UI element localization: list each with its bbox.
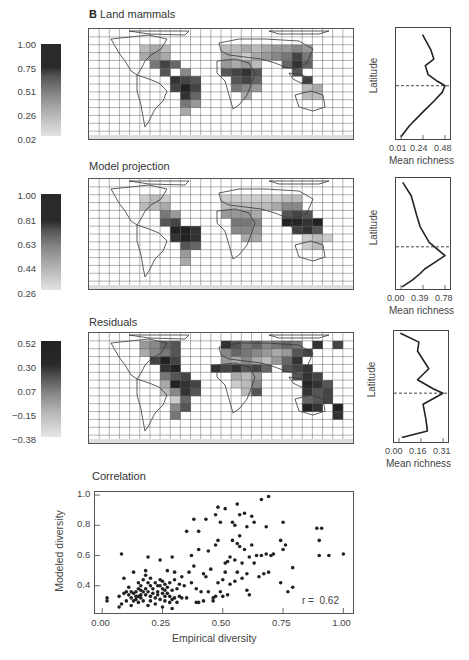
panel-title-text: Land mammals (100, 8, 175, 20)
colorbar-tick-label: 0.44 (0, 263, 36, 274)
scatter-ylabel: Modeled diversity (53, 510, 65, 592)
profile-xtick: 0.00 (385, 446, 403, 456)
correlation-title: Correlation (92, 470, 146, 482)
scatter-ytick: 0.4 (77, 579, 90, 590)
profile-ylabel: Latitude (368, 58, 379, 94)
colorbar-tick-label: 0.75 (0, 63, 36, 74)
world-grid-map (89, 333, 353, 443)
colorbar-tick-label: 0.30 (0, 362, 36, 373)
panel-title-land-mammals: BLand mammals (89, 8, 175, 20)
profile-ylabel: Latitude (368, 210, 379, 246)
profile-xtick: 0.31 (433, 446, 451, 456)
colorbar-tick-label: 0.52 (0, 338, 36, 349)
correlation-annotation: r = 0.62 (302, 595, 339, 606)
map-land-mammals (88, 28, 354, 140)
scatter-xtick: 1.00 (332, 617, 351, 628)
scatter-xtick: 0.50 (212, 617, 231, 628)
world-grid-map (89, 29, 353, 139)
scatter-ytick: 1.0 (77, 488, 90, 499)
profile-xtick: 0.01 (389, 143, 407, 153)
profile-xlabel: Mean richness (389, 305, 454, 316)
profile-frame (395, 177, 451, 290)
panel-title-model-projection: Model projection (89, 160, 170, 172)
profile-xlabel: Mean richness (389, 155, 454, 166)
colorbar-tick-label: 0.51 (0, 86, 36, 97)
colorbar-tick-label: 0.02 (0, 134, 36, 145)
colorbar-tick-label: −0.38 (0, 434, 36, 445)
scatter-xtick: 0.00 (91, 617, 110, 628)
latitude-profile-line (396, 178, 450, 289)
scatter-ytick: 0.8 (77, 518, 90, 529)
profile-xtick: 0.24 (410, 143, 428, 153)
colorbar-gradient (41, 341, 61, 437)
profile-xtick: 0.48 (434, 143, 452, 153)
profile-xtick: 0.00 (387, 293, 405, 303)
latitude-profile-line (396, 28, 450, 139)
profile-frame (395, 27, 451, 140)
scatter-xtick: 0.75 (272, 617, 291, 628)
panel-title-residuals: Residuals (89, 316, 137, 328)
colorbar-tick-label: 1.00 (0, 190, 36, 201)
colorbar-tick-label: 0.81 (0, 215, 36, 226)
colorbar-tick-label: 0.07 (0, 386, 36, 397)
profile-ylabel: Latitude (366, 362, 377, 398)
scatter-xlabel: Empirical diversity (172, 632, 257, 644)
map-residuals (88, 332, 354, 444)
map-model-projection (88, 178, 354, 290)
profile-xtick: 0.16 (409, 446, 427, 456)
latitude-profile-line (394, 331, 448, 442)
scatter-ytick: 0.6 (77, 549, 90, 560)
colorbar-tick-label: −0.15 (0, 410, 36, 421)
colorbar-tick-label: 0.63 (0, 239, 36, 250)
profile-frame (393, 330, 449, 443)
scatter-xtick: 0.25 (152, 617, 171, 628)
colorbar-tick-label: 0.26 (0, 110, 36, 121)
colorbar-gradient (41, 194, 61, 290)
profile-xtick: 0.78 (435, 293, 453, 303)
colorbar-tick-label: 1.00 (0, 39, 36, 50)
profile-xlabel: Mean richness (386, 458, 451, 469)
panel-label: B (89, 8, 97, 20)
world-grid-map (89, 179, 353, 289)
colorbar-tick-label: 0.26 (0, 288, 36, 299)
colorbar-gradient (41, 44, 61, 136)
profile-xtick: 0.39 (411, 293, 429, 303)
